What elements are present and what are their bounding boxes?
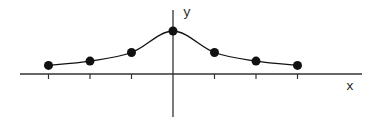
data-point: [86, 57, 95, 66]
x-axis-label: x: [346, 79, 354, 94]
y-axis-label: y: [183, 5, 191, 20]
data-point: [252, 57, 261, 66]
data-point: [293, 61, 302, 70]
chart: y x: [0, 0, 379, 121]
data-point: [210, 48, 219, 57]
data-point: [44, 61, 53, 70]
data-point: [127, 48, 136, 57]
data-point: [169, 27, 178, 36]
